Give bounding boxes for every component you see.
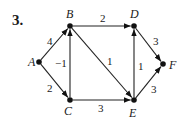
node-label-a: A (27, 55, 36, 69)
node-c (67, 97, 73, 103)
directed-graph: 3. 42−1213133 ABCDEF (0, 0, 187, 126)
node-label-c: C (64, 104, 73, 118)
node-label-f: F (168, 58, 177, 72)
node-label-b: B (66, 7, 74, 21)
node-a (36, 59, 42, 65)
edge-weight-a-b: 4 (47, 35, 53, 47)
node-d (131, 23, 137, 29)
edge-weight-c-b: −1 (55, 57, 67, 69)
node-label-d: D (129, 7, 139, 21)
node-label-e: E (128, 106, 137, 120)
problem-number: 3. (12, 12, 24, 28)
edge-weight-d-f: 3 (153, 35, 159, 47)
node-b (67, 23, 73, 29)
edge-b-e (72, 28, 132, 97)
edge-weight-a-c: 2 (47, 82, 53, 94)
edge-weight-e-f: 3 (151, 83, 157, 95)
edge-weight-b-e: 1 (107, 55, 113, 67)
edge-a-b (41, 29, 68, 60)
node-f (160, 61, 166, 67)
edge-weight-c-e: 3 (98, 102, 104, 114)
edge-a-c (41, 64, 68, 97)
edge-weight-e-d: 1 (138, 60, 144, 72)
node-e (131, 97, 137, 103)
edge-weights-layer: 42−1213133 (47, 12, 159, 114)
edge-weight-b-d: 2 (100, 12, 106, 24)
